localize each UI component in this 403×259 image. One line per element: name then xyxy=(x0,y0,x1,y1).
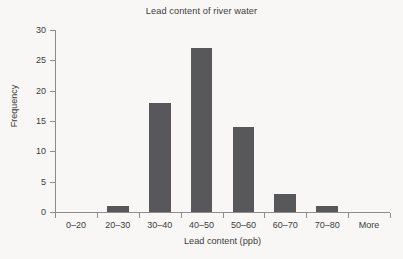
x-axis-title: Lead content (ppb) xyxy=(55,236,390,246)
x-axis-tick xyxy=(306,213,307,218)
y-axis-tick-label: 15 xyxy=(0,116,46,126)
bar-40–50 xyxy=(191,48,213,212)
x-axis-label: 40–50 xyxy=(181,220,223,230)
chart-figure: Lead content of river water Frequency 05… xyxy=(0,0,403,259)
x-axis-label: More xyxy=(348,220,390,230)
x-axis-label: 20–30 xyxy=(97,220,139,230)
chart-title: Lead content of river water xyxy=(0,6,403,16)
x-axis-tick xyxy=(390,213,391,218)
y-axis-tick-label: 0 xyxy=(0,207,46,217)
bar-30–40 xyxy=(149,103,171,212)
x-axis-tick xyxy=(55,213,56,218)
y-axis-tick-label: 10 xyxy=(0,146,46,156)
bar-50–60 xyxy=(233,127,255,212)
y-axis-tick-label: 30 xyxy=(0,25,46,35)
x-axis-tick xyxy=(139,213,140,218)
y-axis-tick-label: 20 xyxy=(0,86,46,96)
x-axis-label: 30–40 xyxy=(139,220,181,230)
x-axis-tick xyxy=(97,213,98,218)
bar-20–30 xyxy=(107,206,129,212)
plot-area xyxy=(55,30,390,212)
x-axis-label: 60–70 xyxy=(264,220,306,230)
bar-70–80 xyxy=(316,206,338,212)
x-axis-tick xyxy=(181,213,182,218)
x-axis-label: 0–20 xyxy=(55,220,97,230)
x-axis-label: 50–60 xyxy=(223,220,265,230)
x-axis-tick xyxy=(348,213,349,218)
y-axis-tick-label: 5 xyxy=(0,177,46,187)
x-axis-tick xyxy=(264,213,265,218)
bar-60–70 xyxy=(274,194,296,212)
x-axis-label: 70–80 xyxy=(306,220,348,230)
x-axis-tick xyxy=(223,213,224,218)
y-axis-tick-label: 25 xyxy=(0,55,46,65)
